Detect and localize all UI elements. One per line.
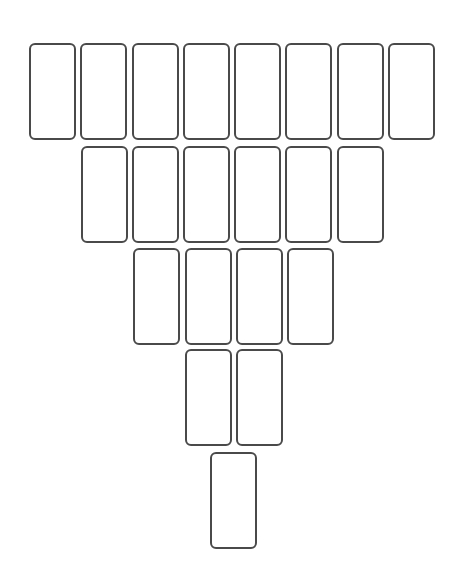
card-slot-row3-col1 bbox=[133, 248, 180, 345]
card-slot-row1-col7 bbox=[337, 43, 384, 140]
card-slot-row2-col6 bbox=[337, 146, 384, 243]
card-slot-row5-col1 bbox=[210, 452, 257, 549]
card-slot-row2-col4 bbox=[234, 146, 281, 243]
card-slot-row1-col1 bbox=[29, 43, 76, 140]
card-slot-row1-col3 bbox=[132, 43, 179, 140]
card-slot-row2-col1 bbox=[81, 146, 128, 243]
card-slot-row1-col2 bbox=[80, 43, 127, 140]
card-slot-row3-col3 bbox=[236, 248, 283, 345]
card-slot-row1-col8 bbox=[388, 43, 435, 140]
card-slot-row1-col6 bbox=[285, 43, 332, 140]
card-slot-row4-col2 bbox=[236, 349, 283, 446]
card-slot-row3-col4 bbox=[287, 248, 334, 345]
card-pyramid-layout bbox=[0, 0, 463, 582]
card-slot-row2-col5 bbox=[285, 146, 332, 243]
card-slot-row3-col2 bbox=[185, 248, 232, 345]
card-slot-row1-col5 bbox=[234, 43, 281, 140]
card-slot-row2-col2 bbox=[132, 146, 179, 243]
card-slot-row1-col4 bbox=[183, 43, 230, 140]
card-slot-row4-col1 bbox=[185, 349, 232, 446]
card-slot-row2-col3 bbox=[183, 146, 230, 243]
